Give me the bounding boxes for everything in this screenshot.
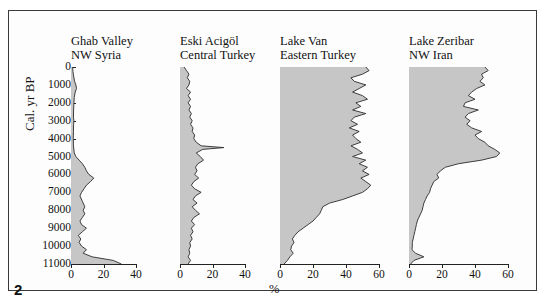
panel-ghab-valley: Ghab ValleyNW Syria02040 — [71, 67, 136, 264]
y-axis-tick-label: 8000 — [48, 205, 71, 217]
y-axis-tick-label: 4000 — [48, 133, 71, 145]
panel-title-line2: NW Syria — [71, 48, 133, 63]
plot-area: 0204060 — [280, 67, 379, 264]
pollen-curve — [280, 67, 379, 264]
x-axis-tick-label: 20 — [98, 268, 110, 280]
x-axis-tick-label: 60 — [502, 268, 514, 280]
x-axis-tick-label: 20 — [207, 268, 219, 280]
y-axis-tick-label: 7000 — [48, 187, 71, 199]
x-axis-tick-label: 0 — [68, 268, 74, 280]
panel-title-line2: Eastern Turkey — [280, 48, 356, 63]
y-axis-tick-label: 11000 — [43, 258, 71, 270]
panel-title: Lake ZeribarNW Iran — [409, 34, 474, 64]
x-axis-label: % — [269, 282, 279, 297]
pollen-curve — [409, 67, 508, 264]
pollen-curve — [71, 67, 136, 264]
panel-title-line2: NW Iran — [409, 48, 474, 63]
x-axis-line — [409, 264, 508, 265]
y-axis-tick-column: 0100020003000400050006000700080009000100… — [29, 66, 75, 281]
x-axis-tick-label: 40 — [130, 268, 142, 280]
pollen-curve — [180, 67, 245, 264]
panel-lake-zeribar: Lake ZeribarNW Iran0204060 — [409, 67, 508, 264]
x-axis-tick-label: 0 — [177, 268, 183, 280]
y-axis-tick-label: 9000 — [48, 222, 71, 234]
plot-area: 0204060 — [409, 67, 508, 264]
y-axis-tick-label: 5000 — [48, 151, 71, 163]
y-axis-tick-label: 1000 — [48, 79, 71, 91]
panel-title: Eski AcigölCentral Turkey — [180, 34, 255, 64]
figure-number: 2 — [14, 281, 23, 298]
x-axis-tick-label: 0 — [406, 268, 412, 280]
panel-title-line1: Lake Van — [280, 34, 356, 49]
x-axis-tick-label: 60 — [373, 268, 385, 280]
x-axis-tick-label: 20 — [436, 268, 448, 280]
x-axis-tick-label: 40 — [340, 268, 352, 280]
y-axis-tick-label: 10000 — [42, 240, 71, 252]
y-axis-tick-label: 2000 — [48, 97, 71, 109]
panel-title-line1: Ghab Valley — [71, 34, 133, 49]
y-axis-tick-label: 6000 — [48, 169, 71, 181]
figure-frame: Cal. yr BP 01000200030004000500060007000… — [8, 10, 537, 291]
panel-title-line1: Lake Zeribar — [409, 34, 474, 49]
plot-area: 02040 — [71, 67, 136, 264]
x-axis-tick-label: 20 — [307, 268, 319, 280]
panel-title-line1: Eski Acigöl — [180, 34, 255, 49]
panel-title: Ghab ValleyNW Syria — [71, 34, 133, 64]
x-axis-tick-label: 40 — [239, 268, 251, 280]
panel-lake-van: Lake VanEastern Turkey0204060 — [280, 67, 379, 264]
panel-eski-acig-l: Eski AcigölCentral Turkey02040 — [180, 67, 245, 264]
panel-title-line2: Central Turkey — [180, 48, 255, 63]
x-axis-tick-label: 0 — [277, 268, 283, 280]
x-axis-line — [280, 264, 379, 265]
panel-title: Lake VanEastern Turkey — [280, 34, 356, 64]
plot-area: 02040 — [180, 67, 245, 264]
x-axis-tick-label: 40 — [469, 268, 481, 280]
y-axis-tick-label: 3000 — [48, 115, 71, 127]
